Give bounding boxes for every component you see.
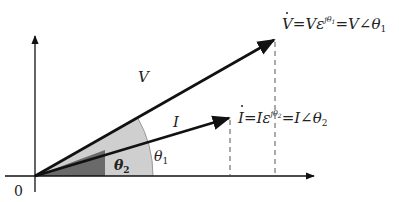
origin-label: 0 (14, 183, 23, 199)
svg-text:V=Vεjθ1=V∠θ1: V=Vεjθ1=V∠θ1 (282, 15, 386, 34)
voltage-equation: V=Vεjθ1=V∠θ1 (282, 12, 386, 34)
v-vector-label: V (138, 68, 151, 86)
i-vector-label: I (172, 113, 180, 131)
svg-text:I=Iεjθ2=I∠θ2: I=Iεjθ2=I∠θ2 (237, 109, 327, 128)
phasor-diagram: 0 V I θ1 θ2 V=Vεjθ1=V∠θ1 I=Iεjθ2=I∠θ2 (0, 0, 399, 202)
theta1-label: θ1 (154, 148, 168, 166)
current-equation: I=Iεjθ2=I∠θ2 (237, 105, 327, 128)
